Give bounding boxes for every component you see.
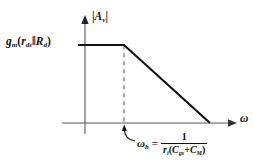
omega-subscript: h bbox=[145, 142, 149, 149]
den-C-gs-symbol: C bbox=[172, 144, 179, 155]
y-axis-label: |Av| bbox=[92, 11, 108, 24]
bode-magnitude-figure bbox=[0, 0, 253, 167]
fraction-numerator: 1 bbox=[179, 132, 190, 143]
fraction: 1 ri(Cgs+CM) bbox=[161, 132, 207, 156]
y-axis bbox=[81, 15, 88, 134]
den-paren-close: ) bbox=[202, 144, 205, 155]
passband-gain-label: gm(rds‖Rd) bbox=[6, 36, 51, 49]
omega-symbol: ω bbox=[137, 137, 145, 149]
magnitude-response-curve bbox=[78, 45, 210, 123]
omega-h-term: ωh bbox=[137, 138, 149, 151]
den-C-M-symbol: C bbox=[190, 144, 197, 155]
equals-sign: = bbox=[152, 138, 158, 149]
x-axis bbox=[62, 119, 237, 127]
corner-frequency-leader-arrow bbox=[122, 125, 135, 142]
abs-bar-right: | bbox=[105, 10, 108, 22]
gain-paren-close: ) bbox=[47, 35, 51, 47]
x-axis-label: ω bbox=[240, 113, 248, 125]
corner-frequency-equation: ωh = 1 ri(Cgs+CM) bbox=[137, 132, 207, 156]
fraction-denominator: ri(Cgs+CM) bbox=[161, 144, 207, 156]
